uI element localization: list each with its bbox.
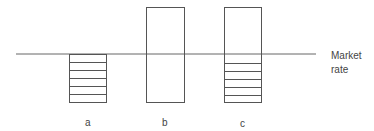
bar-label-c: c (240, 118, 245, 130)
market-rate-label-line2: rate (331, 64, 362, 76)
bar-a (70, 55, 107, 103)
bar-label-a: a (85, 117, 91, 129)
market-rate-label: Market rate (331, 50, 362, 76)
bar-b (147, 8, 185, 103)
bar-c (225, 8, 262, 103)
bar-label-b: b (162, 117, 168, 129)
market-rate-label-line1: Market (331, 50, 362, 62)
diagram-canvas (0, 0, 374, 131)
